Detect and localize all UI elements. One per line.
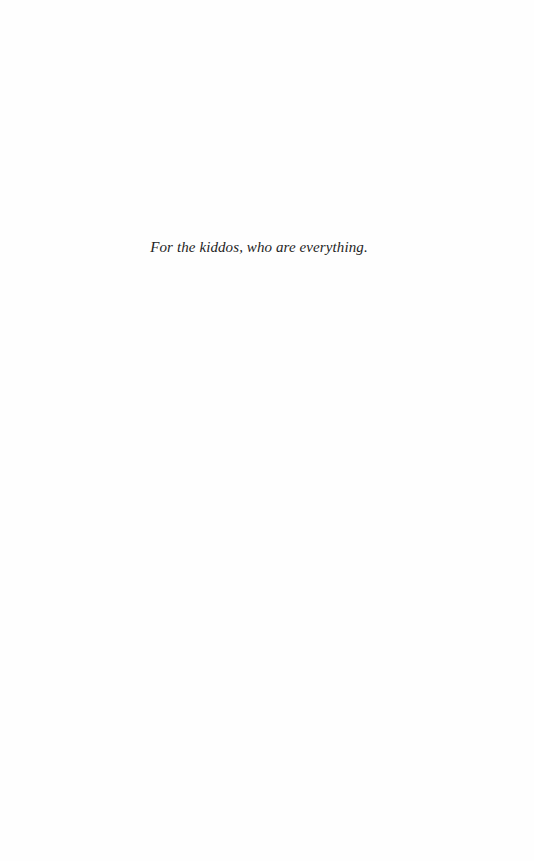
dedication-text: For the kiddos, who are everything. [0, 237, 518, 257]
dedication-page: For the kiddos, who are everything. [0, 0, 534, 861]
